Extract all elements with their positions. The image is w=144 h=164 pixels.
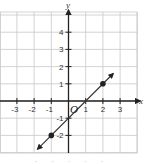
- x-tick-label: -2: [29, 105, 37, 114]
- axes: [0, 10, 140, 153]
- x-axis-label: x: [138, 96, 143, 106]
- faint-caption-fragment: . . . . .: [0, 155, 144, 164]
- x-tick-label: 2: [101, 105, 106, 114]
- y-tick-label: -1: [56, 114, 64, 123]
- y-tick-label: 3: [59, 45, 64, 54]
- x-tick-label: 1: [83, 105, 88, 114]
- data-point: [100, 81, 106, 87]
- origin-label: O: [70, 103, 78, 115]
- coordinate-graph: -3-2-11234321-1-2 x y O: [0, 0, 144, 164]
- x-tick-label: -3: [11, 105, 19, 114]
- x-tick-label: -1: [46, 105, 54, 114]
- y-axis-label: y: [65, 0, 70, 10]
- data-point: [49, 133, 55, 139]
- y-tick-label: -2: [56, 131, 64, 140]
- y-tick-label: 2: [59, 63, 64, 72]
- ticks: -3-2-11234321-1-2: [11, 28, 123, 140]
- x-tick-label: 3: [118, 105, 123, 114]
- y-tick-label: 4: [59, 28, 64, 37]
- y-tick-label: 1: [59, 80, 64, 89]
